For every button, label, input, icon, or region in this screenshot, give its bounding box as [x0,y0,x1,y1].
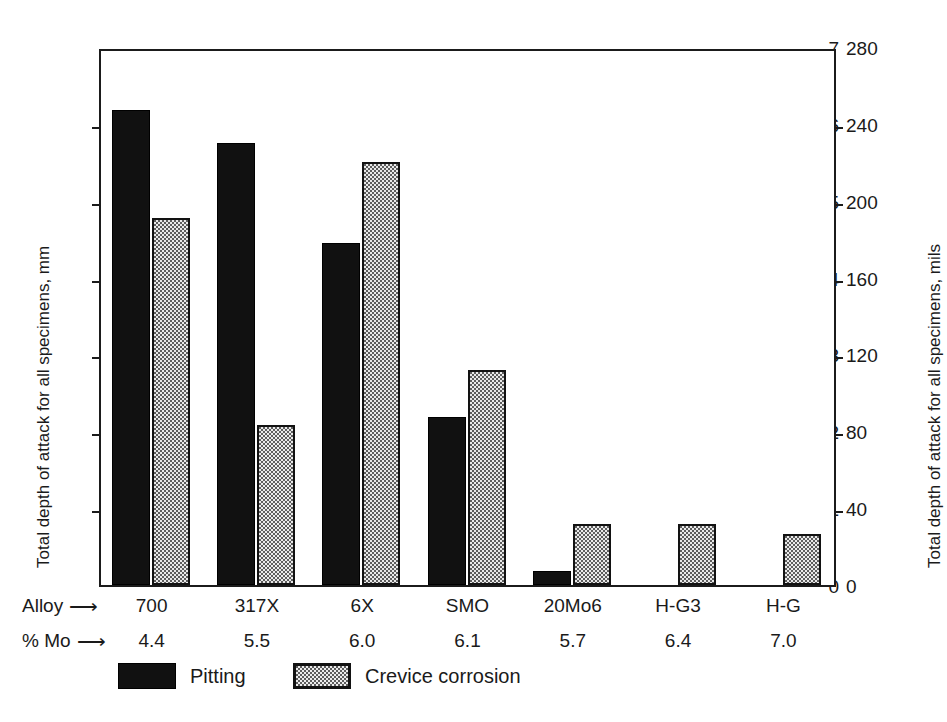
mo-cell: 6.1 [418,630,518,652]
left-tick-mark [92,511,101,513]
right-tick-label: 280 [846,39,898,58]
alloy-arrow-icon: ⟶ [69,597,98,616]
chart-legend: Pitting Crevice corrosion [118,663,521,689]
alloy-cell: 6X [312,595,412,617]
bar-H-G-crevice [783,534,821,585]
mo-cell: 5.7 [523,630,623,652]
right-tick-mark [834,281,843,283]
right-tick-label: 200 [846,193,898,212]
alloy-row-text: Alloy [22,595,63,617]
left-axis-title: Total depth of attack for all specimens,… [34,246,54,568]
alloy-cell: H-G3 [628,595,728,617]
mo-cell: 5.5 [207,630,307,652]
right-tick-label: 160 [846,270,898,289]
left-tick-mark [92,127,101,129]
legend-label-pitting: Pitting [190,665,246,688]
alloy-cell: 317X [207,595,307,617]
alloy-cell: SMO [418,595,518,617]
legend-item-pitting: Pitting [118,663,293,689]
legend-swatch-pitting-icon [118,663,176,689]
legend-label-crevice: Crevice corrosion [365,665,521,688]
mo-cell: 6.4 [628,630,728,652]
bar-317X-crevice [257,425,295,585]
plot-area [101,51,834,585]
mo-row-text: % Mo [22,630,71,652]
right-tick-label: 40 [846,500,898,519]
left-tick-mark [92,357,101,359]
alloy-cell: 20Mo6 [523,595,623,617]
alloy-row-label: Alloy ⟶ [22,595,98,617]
bar-20Mo6-pitting [533,571,571,585]
right-tick-label: 80 [846,423,898,442]
mo-row-label: % Mo ⟶ [22,630,106,652]
bar-700-pitting [112,110,150,585]
bar-SMO-pitting [428,417,466,585]
mo-cell: 7.0 [733,630,833,652]
left-tick-mark [92,281,101,283]
chart-root: Total depth of attack for all specimens,… [0,0,947,722]
left-tick-mark [92,434,101,436]
alloy-cell: H-G [733,595,833,617]
right-tick-mark [834,357,843,359]
mo-cell: 4.4 [102,630,202,652]
bar-317X-pitting [217,143,255,585]
legend-swatch-crevice-icon [293,663,351,689]
right-tick-mark [834,434,843,436]
left-tick-mark [92,204,101,206]
right-tick-mark [834,204,843,206]
right-tick-mark [834,127,843,129]
right-tick-label: 0 [846,577,898,596]
bar-SMO-crevice [468,370,506,585]
right-tick-label: 120 [846,346,898,365]
bar-6X-pitting [322,243,360,585]
alloy-cell: 700 [102,595,202,617]
right-axis-title: Total depth of attack for all specimens,… [925,244,945,568]
right-tick-label: 240 [846,116,898,135]
bar-700-crevice [152,218,190,585]
right-tick-mark [834,511,843,513]
bar-20Mo6-crevice [573,524,611,585]
bar-6X-crevice [362,162,400,585]
plot-frame [99,49,836,587]
bar-H-G3-crevice [678,524,716,585]
mo-cell: 6.0 [312,630,412,652]
legend-item-crevice: Crevice corrosion [293,663,521,689]
